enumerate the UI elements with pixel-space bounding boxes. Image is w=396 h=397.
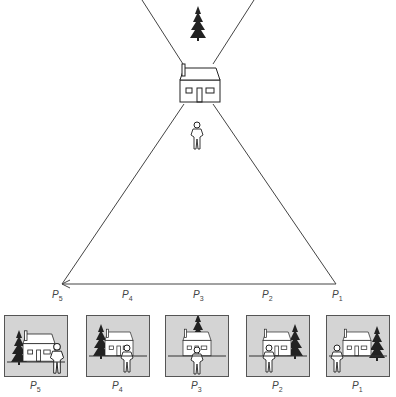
point-label-p1: P1 xyxy=(332,289,343,302)
point-label-p4: P4 xyxy=(122,289,133,302)
view-frame-p2 xyxy=(246,315,310,377)
view-label-p3: P3 xyxy=(191,380,202,393)
point-label-p5: P5 xyxy=(52,289,63,302)
view-label-p1: P1 xyxy=(352,380,363,393)
point-label-p2: P2 xyxy=(262,289,273,302)
person-icon xyxy=(191,122,203,149)
view-frame-p3 xyxy=(165,315,229,377)
view-frame-p1 xyxy=(326,315,390,377)
view-frame-p5 xyxy=(4,315,68,377)
tree-icon xyxy=(190,6,206,41)
view-label-p4: P4 xyxy=(112,380,123,393)
point-label-p3: P3 xyxy=(193,289,204,302)
view-label-p2: P2 xyxy=(272,380,283,393)
view-label-p5: P5 xyxy=(30,380,41,393)
view-frame-p4 xyxy=(86,315,150,377)
house-icon xyxy=(180,64,220,102)
